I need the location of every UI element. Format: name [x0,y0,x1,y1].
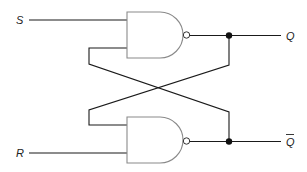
bottom-nand-gate [127,117,190,163]
input-label-s: S [16,14,24,26]
junction-dot-q [226,32,232,38]
inverter-bubble-icon [183,32,189,38]
output-label-q-bar: Q [286,136,295,148]
top-nand-gate [127,12,190,58]
inverter-bubble-icon [183,138,189,144]
output-label-q: Q [286,30,295,42]
junction-dot-q-bar [226,138,232,144]
sr-latch-diagram: S R Q Q [0,0,307,172]
input-label-r: R [16,147,24,159]
